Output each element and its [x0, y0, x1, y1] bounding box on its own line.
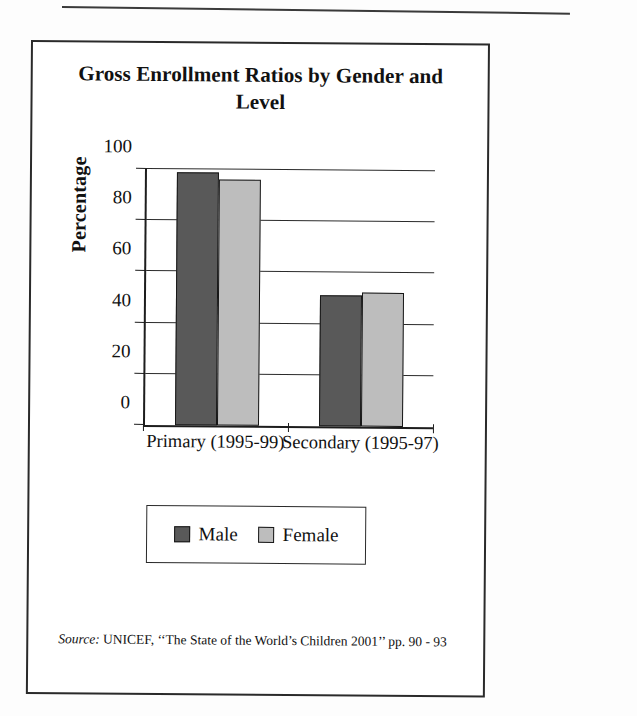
- legend-item-female: Female: [258, 524, 339, 547]
- plot-area: 020406080100: [143, 169, 435, 429]
- x-axis-labels: Primary (1995-99)Secondary (1995-97): [143, 431, 433, 463]
- legend-item-male: Male: [174, 523, 238, 546]
- x-tick-1: [288, 423, 289, 432]
- bar-female-primary: [217, 180, 261, 426]
- source-text: UNICEF, ‘‘The State of the World’s Child…: [100, 632, 447, 650]
- legend-swatch-female: [258, 527, 274, 543]
- chart-title-line-2: Level: [236, 89, 286, 113]
- x-axis-label-primary: Primary (1995-99): [146, 431, 284, 453]
- legend-label-male: Male: [199, 523, 238, 545]
- source-label: Source:: [58, 631, 100, 646]
- legend-swatch-male: [174, 526, 190, 542]
- chart-legend: MaleFemale: [146, 505, 366, 565]
- chart-title: Gross Enrollment Ratios by Gender and Le…: [58, 60, 462, 117]
- figure-inner: Gross Enrollment Ratios by Gender and Le…: [28, 42, 488, 696]
- plot-wrapper: Percentage 020406080100 Primary (1995-99…: [30, 160, 487, 484]
- bar-male-primary: [175, 172, 219, 426]
- y-tick-label-80: 80: [113, 186, 132, 208]
- y-tick-80: [136, 219, 147, 220]
- y-tick-20: [134, 373, 145, 374]
- bar-female-secondary: [361, 292, 404, 427]
- x-tick-0: [143, 422, 144, 431]
- y-tick-label-20: 20: [111, 340, 130, 362]
- bars-layer: [145, 169, 435, 427]
- y-axis-label: Percentage: [67, 156, 91, 252]
- y-tick-60: [135, 270, 146, 271]
- legend-label-female: Female: [283, 524, 339, 546]
- y-tick-label-0: 0: [121, 391, 131, 413]
- figure-container: Gross Enrollment Ratios by Gender and Le…: [26, 40, 490, 698]
- y-tick-label-100: 100: [104, 135, 133, 157]
- source-note: Source: UNICEF, ‘‘The State of the World…: [58, 630, 472, 651]
- chart-title-line-1: Gross Enrollment Ratios by Gender and: [78, 61, 443, 88]
- x-axis-label-secondary: Secondary (1995-97): [282, 432, 439, 454]
- x-tick-2: [433, 424, 434, 433]
- bar-male-secondary: [319, 296, 362, 427]
- y-tick-100: [136, 168, 147, 169]
- y-tick-40: [135, 321, 146, 322]
- y-tick-label-40: 40: [112, 289, 131, 311]
- y-tick-label-60: 60: [112, 238, 131, 260]
